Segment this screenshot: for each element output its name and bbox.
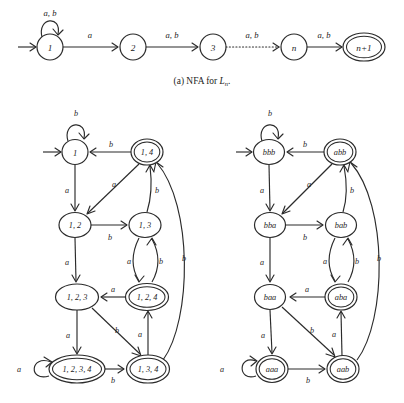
dfa-named-edge-label-abb-bbb: b <box>303 140 307 149</box>
dfa-named-state-aab-accepting[interactable]: aab <box>327 356 359 383</box>
dfa-named-edge-label-aab-aba: a <box>332 330 336 339</box>
dfa-subset-state-label-1-4: 1, 4 <box>141 148 153 157</box>
nfa-state-label-3: 3 <box>210 43 216 53</box>
dfa-named-state-label-bab: bab <box>335 221 347 230</box>
dfa-subset-edge-q1-q1 <box>67 125 89 141</box>
dfa-named-state-abb-accepting[interactable]: abb <box>324 139 356 165</box>
dfa-named-edge-label-bab-abb: b <box>350 186 354 195</box>
dfa-named-state-baa[interactable]: baa <box>255 285 286 310</box>
dfa-named-state-bbb[interactable]: bbb <box>254 140 285 165</box>
dfa-named-state-label-aba: aba <box>335 293 347 302</box>
nfa-edge-label-s3-sn: a, b <box>246 30 260 40</box>
dfa-named-edge-aaa-aab <box>288 365 325 373</box>
dfa-subset-edge-label-q14-q12: a <box>112 180 116 189</box>
dfa-named-state-label-aab: aab <box>337 365 349 374</box>
dfa-named-state-label-bbb: bbb <box>263 148 275 157</box>
dfa-named-edge-label-aba-bab: b <box>355 257 359 266</box>
dfa-subset-edge-label-q123-q1234: a <box>66 331 70 340</box>
dfa-named-edge-label-aaa-aab: b <box>306 376 310 385</box>
dfa-named-state-label-baa: baa <box>264 293 276 302</box>
dfa-subset-edge-q14-q1 <box>90 148 131 156</box>
figure-caption-a: (a) NFA for Ln. <box>174 76 231 87</box>
dfa-named-start-arrow <box>236 148 252 156</box>
dfa-named-edge-bba-baa <box>266 238 274 282</box>
dfa-subset-state-label-1-3-4: 1, 3, 4 <box>138 365 159 374</box>
dfa-named-edge-label-bab-aba: a <box>323 257 327 266</box>
dfa-named-edge-bbb-bba <box>266 165 274 211</box>
dfa-named-state-label-bba: bba <box>264 221 276 230</box>
dfa-subset-state-label-1: 1 <box>73 148 77 158</box>
dfa-named-edge-label-abb-bba: a <box>307 180 311 189</box>
dfa-named-edge-bab-abb <box>340 165 348 212</box>
dfa-subset-state-label-1-2-3-4: 1, 2, 3, 4 <box>62 365 91 374</box>
dfa-named-edge-label-bba-baa: a <box>260 258 264 267</box>
dfa-subset-edge-label-q1-q1: b <box>74 109 78 118</box>
dfa-named-state-label-aaa: aaa <box>266 365 278 374</box>
dfa-subset-edge-label-q124-q123: a <box>111 285 115 294</box>
dfa-subset-edge-label-q13-q14: b <box>155 186 159 195</box>
dfa-subset-edge-label-q134-q124: a <box>138 330 142 339</box>
dfa-subset-edge-q124-q123 <box>101 293 125 301</box>
nfa-group: a, b a a, b a, b <box>18 8 385 61</box>
dfa-subset-edge-q13-q14 <box>146 165 154 212</box>
dfa-named-state-aba-accepting[interactable]: aba <box>325 284 357 310</box>
dfa-named-state-label-abb: abb <box>334 148 346 157</box>
dfa-named-edge-label-aba-baa: a <box>305 285 309 294</box>
dfa-named-group: b b a a b <box>220 109 381 385</box>
nfa-edge-label-self-s1: a, b <box>44 8 58 18</box>
nfa-state-3[interactable]: 3 <box>200 34 226 60</box>
dfa-subset-edge-q14-q12 <box>87 164 139 214</box>
dfa-named-edge-abb-bba <box>282 164 332 214</box>
dfa-subset-state-1[interactable]: 1 <box>62 140 88 165</box>
dfa-named-state-bba[interactable]: bba <box>255 213 286 238</box>
dfa-named-edge-aab-aba <box>337 311 345 356</box>
nfa-state-n-plus-1-accepting[interactable]: n+1 <box>343 33 385 61</box>
dfa-named-edge-bbb-bbb <box>261 125 283 141</box>
nfa-state-label-2: 2 <box>131 43 136 53</box>
dfa-subset-state-label-1-2-4: 1, 2, 4 <box>137 293 158 302</box>
dfa-named-state-bab[interactable]: bab <box>326 213 357 238</box>
dfa-subset-edge-q134-q124 <box>144 311 152 356</box>
nfa-edge-label-s2-s3: a, b <box>166 30 180 40</box>
dfa-subset-edge-label-q12-q13: b <box>108 233 112 242</box>
dfa-subset-edge-q13-q124 <box>133 238 144 282</box>
dfa-subset-edge-q124-q13 <box>147 238 158 282</box>
nfa-state-1[interactable]: 1 <box>37 34 63 60</box>
dfa-subset-state-1-2-3[interactable]: 1, 2, 3 <box>56 284 99 310</box>
nfa-state-n[interactable]: n <box>281 34 307 60</box>
nfa-start-arrow <box>18 43 36 51</box>
caption-prefix: (a) NFA for <box>174 76 220 87</box>
dfa-subset-state-1-4-accepting[interactable]: 1, 4 <box>131 139 163 165</box>
dfa-subset-edge-label-q134-q14: b <box>182 254 186 263</box>
dfa-named-edge-label-baa-aaa: a <box>261 331 265 340</box>
dfa-named-edge-bba-bab <box>286 221 323 229</box>
nfa-state-label-1: 1 <box>48 43 53 53</box>
dfa-subset-state-label-1-2: 1, 2 <box>69 221 81 230</box>
dfa-subset-edge-label-q14-q1: b <box>109 140 113 149</box>
dfa-subset-state-1-2[interactable]: 1, 2 <box>59 213 91 238</box>
dfa-subset-edge-q1-q12 <box>71 165 79 211</box>
dfa-named-edge-label-aaa-aaa: a <box>220 365 224 374</box>
nfa-state-label-n-plus-1: n+1 <box>356 43 371 53</box>
dfa-subset-start-arrow <box>43 148 61 156</box>
dfa-subset-state-label-1-3: 1, 3 <box>139 221 151 230</box>
dfa-subset-edge-q12-q123 <box>72 238 80 282</box>
dfa-subset-state-1-2-4-accepting[interactable]: 1, 2, 4 <box>126 284 169 311</box>
dfa-subset-state-1-2-3-4-accepting[interactable]: 1, 2, 3, 4 <box>49 355 105 383</box>
dfa-named-edge-baa-aab <box>282 307 335 357</box>
caption-suffix: . <box>228 76 230 86</box>
dfa-named-edge-aba-baa <box>290 293 325 301</box>
nfa-state-label-n: n <box>292 43 297 53</box>
dfa-subset-state-1-3[interactable]: 1, 3 <box>129 213 161 238</box>
nfa-edge-s1-s2 <box>63 43 118 51</box>
nfa-state-2[interactable]: 2 <box>120 34 146 60</box>
nfa-edge-label-sn-sn1: a, b <box>318 30 332 40</box>
dfa-subset-edge-label-q12-q123: a <box>65 258 69 267</box>
dfa-subset-edge-label-q1234-q1234: a <box>17 365 21 374</box>
dfa-subset-edge-label-q124-q13: b <box>159 257 163 266</box>
dfa-subset-group: b b a a b <box>17 109 186 385</box>
nfa-edge-label-s1-s2: a <box>88 30 92 40</box>
dfa-named-state-aaa-accepting[interactable]: aaa <box>256 356 288 383</box>
dfa-subset-state-1-3-4-accepting[interactable]: 1, 3, 4 <box>127 355 170 383</box>
nfa-edge-s2-s3 <box>146 43 198 51</box>
